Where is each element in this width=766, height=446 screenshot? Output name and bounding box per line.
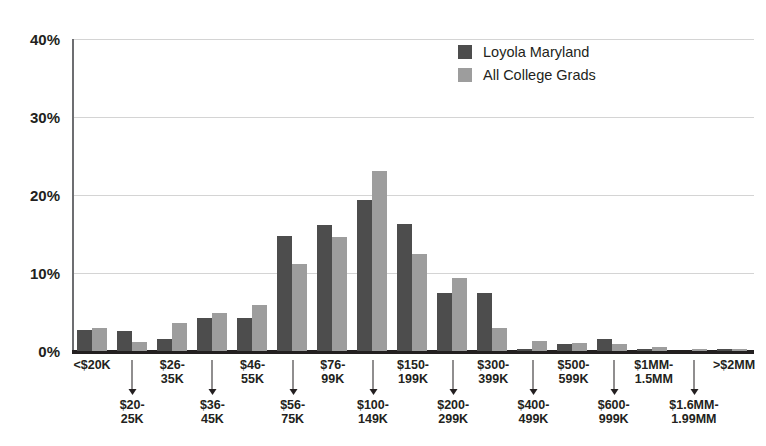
- bar-group: [232, 39, 272, 351]
- bar: [492, 328, 507, 351]
- bar: [452, 278, 467, 351]
- bar-group: [72, 39, 112, 351]
- bar: [637, 349, 652, 351]
- bar-group: [312, 39, 352, 351]
- legend: Loyola MarylandAll College Grads: [458, 44, 596, 90]
- bar: [357, 200, 372, 351]
- bar: [197, 318, 212, 351]
- down-arrow-icon: [693, 360, 694, 390]
- y-axis-tick-20: 20%: [8, 187, 60, 204]
- bar-group: [272, 39, 312, 351]
- bar: [692, 349, 707, 351]
- bar-group: [192, 39, 232, 351]
- legend-item: All College Grads: [458, 67, 596, 83]
- bar-group: [112, 39, 152, 351]
- y-axis-tick-0: 0%: [8, 343, 60, 360]
- legend-item: Loyola Maryland: [458, 44, 596, 60]
- bar: [277, 236, 292, 351]
- legend-swatch-icon: [458, 68, 472, 82]
- legend-label: Loyola Maryland: [483, 44, 589, 60]
- bar: [157, 339, 172, 351]
- bar: [292, 264, 307, 351]
- bar-group: [392, 39, 432, 351]
- bar: [92, 328, 107, 351]
- bar-chart: 40%30%20%10%0% Loyola MarylandAll Colleg…: [0, 0, 766, 446]
- down-arrow-icon: [212, 360, 213, 390]
- bar: [477, 293, 492, 352]
- down-arrow-icon: [453, 360, 454, 390]
- bar: [252, 305, 267, 351]
- down-arrow-icon: [372, 360, 373, 390]
- x-axis-labels: <$20K$20-25K$26-35K$36-45K$46-55K$56-75K…: [72, 356, 754, 446]
- bar-groups: [72, 39, 752, 351]
- y-axis-tick-40: 40%: [8, 31, 60, 48]
- bar: [717, 349, 732, 351]
- bar: [372, 171, 387, 351]
- bar: [517, 349, 532, 351]
- bar: [437, 293, 452, 352]
- bar: [572, 343, 587, 351]
- bar: [732, 349, 747, 351]
- y-axis-tick-10: 10%: [8, 265, 60, 282]
- bar: [612, 344, 627, 351]
- bar: [332, 237, 347, 351]
- down-arrow-icon: [132, 360, 133, 390]
- bar-group: [352, 39, 392, 351]
- bar-group: [152, 39, 192, 351]
- bar: [557, 344, 572, 351]
- x-axis-label: >$2MM: [714, 356, 754, 446]
- bar: [117, 331, 132, 351]
- legend-swatch-icon: [458, 45, 472, 59]
- bar: [412, 254, 427, 351]
- bar-group: [672, 39, 712, 351]
- down-arrow-icon: [292, 360, 293, 390]
- y-axis-tick-30: 30%: [8, 109, 60, 126]
- bar: [172, 323, 187, 351]
- bar: [597, 339, 612, 351]
- bar: [212, 313, 227, 351]
- x-axis-label-text: >$2MM: [706, 358, 762, 372]
- down-arrow-icon: [613, 360, 614, 390]
- plot-area: [72, 39, 752, 351]
- bar: [652, 347, 667, 351]
- legend-label: All College Grads: [483, 67, 596, 83]
- bar-group: [592, 39, 632, 351]
- bar: [237, 318, 252, 351]
- bar: [77, 330, 92, 351]
- bar-group: [632, 39, 672, 351]
- bar: [397, 224, 412, 351]
- down-arrow-icon: [533, 360, 534, 390]
- bar: [317, 225, 332, 351]
- bar: [132, 342, 147, 351]
- bar-group: [712, 39, 752, 351]
- bar: [532, 341, 547, 351]
